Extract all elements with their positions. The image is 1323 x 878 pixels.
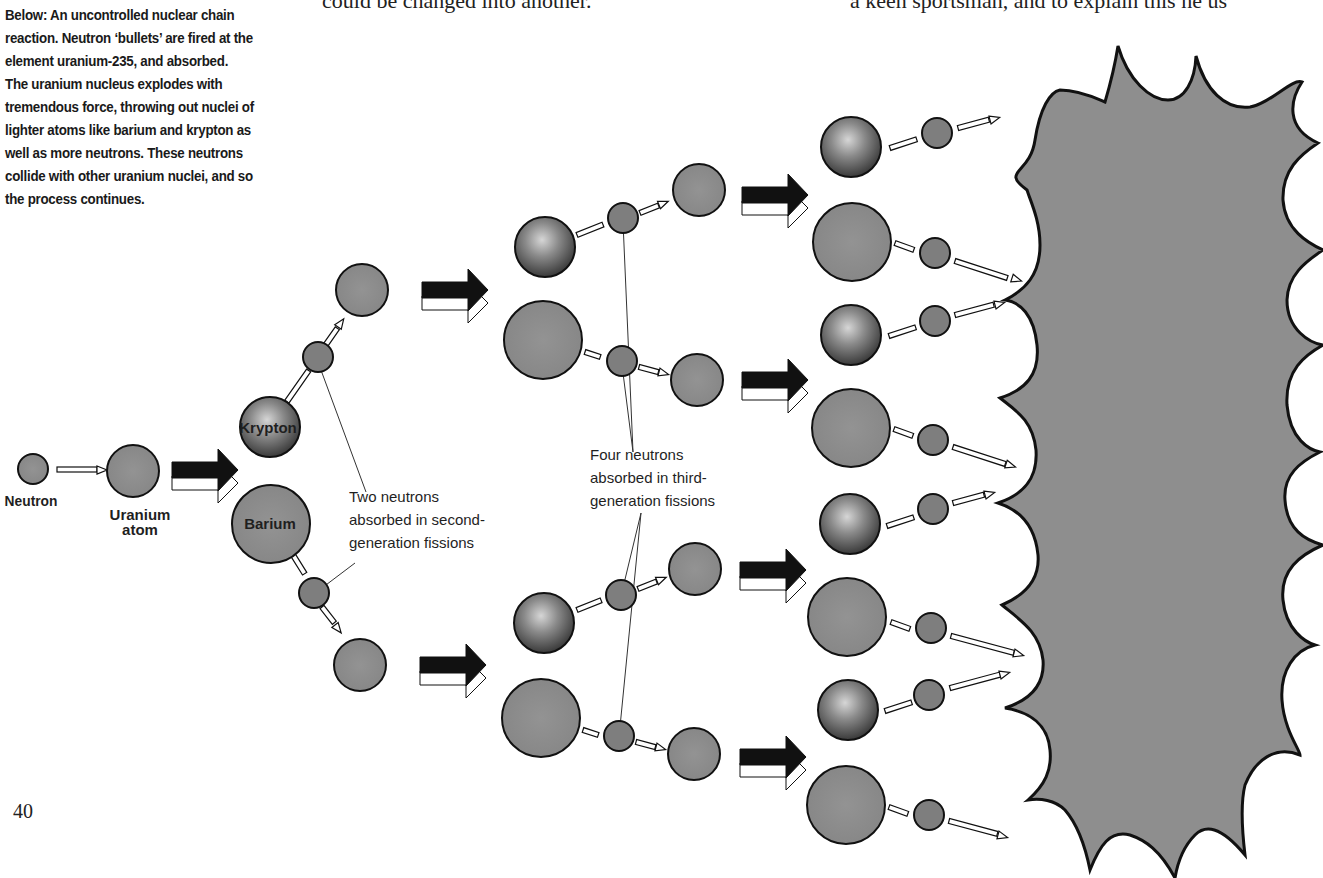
neutron: [922, 118, 952, 148]
uranium-nucleus: [671, 354, 723, 406]
note-second-gen-line1: Two neutrons: [349, 488, 439, 505]
uranium-nucleus: [334, 639, 386, 691]
explosion-shape: [998, 46, 1323, 878]
neutron: [606, 580, 636, 610]
neutron: [918, 494, 948, 524]
krypton-nucleus: [514, 593, 574, 653]
neutron: [303, 342, 333, 372]
fission-arrow: [740, 549, 806, 603]
krypton-nucleus: [515, 217, 575, 277]
neutron: [604, 721, 634, 751]
label-neutron: Neutron: [5, 492, 58, 509]
fission-arrow: [172, 449, 238, 503]
krypton-nucleus: [821, 117, 881, 177]
note-third-gen-line1: Four neutrons: [590, 446, 683, 463]
neutron: [607, 346, 637, 376]
krypton-nucleus: [820, 494, 880, 554]
uranium-nucleus: [669, 543, 721, 595]
barium-nucleus: [807, 766, 885, 844]
krypton-nucleus: [818, 680, 878, 740]
uranium-atom: [107, 445, 159, 497]
note-third-gen-line3: generation fissions: [590, 492, 715, 509]
barium-nucleus: [808, 578, 886, 656]
label-krypton: Krypton: [239, 419, 297, 436]
neutron: [920, 306, 950, 336]
chain-reaction-diagram: Neutron Uranium atom Krypton Barium Two …: [0, 0, 1323, 878]
barium-nucleus: [813, 203, 891, 281]
fission-arrow: [742, 174, 808, 228]
neutron: [918, 425, 948, 455]
neutron-bullet: [18, 454, 48, 484]
uranium-nucleus: [336, 264, 388, 316]
neutron: [914, 800, 944, 830]
fission-arrow: [742, 359, 808, 413]
neutron: [299, 578, 329, 608]
uranium-nucleus: [668, 728, 720, 780]
krypton-nucleus: [821, 305, 881, 365]
fission-arrow: [422, 269, 488, 323]
barium-nucleus: [812, 389, 890, 467]
neutron: [914, 680, 944, 710]
explosion-star: [998, 46, 1323, 878]
neutron: [608, 203, 638, 233]
fission-arrows: [172, 174, 808, 790]
uranium-nucleus: [673, 164, 725, 216]
neutron: [916, 613, 946, 643]
note-second-gen-line2: absorbed in second-: [349, 511, 485, 528]
nuclei: [18, 117, 952, 844]
label-uranium-line2: atom: [122, 521, 158, 538]
fission-arrow: [740, 736, 806, 790]
label-barium: Barium: [244, 515, 296, 532]
barium-nucleus: [502, 679, 580, 757]
neutron: [920, 238, 950, 268]
note-second-gen-line3: generation fissions: [349, 534, 474, 551]
fission-arrow: [420, 644, 486, 698]
barium-nucleus: [504, 301, 582, 379]
note-third-gen-line2: absorbed in third-: [590, 469, 707, 486]
